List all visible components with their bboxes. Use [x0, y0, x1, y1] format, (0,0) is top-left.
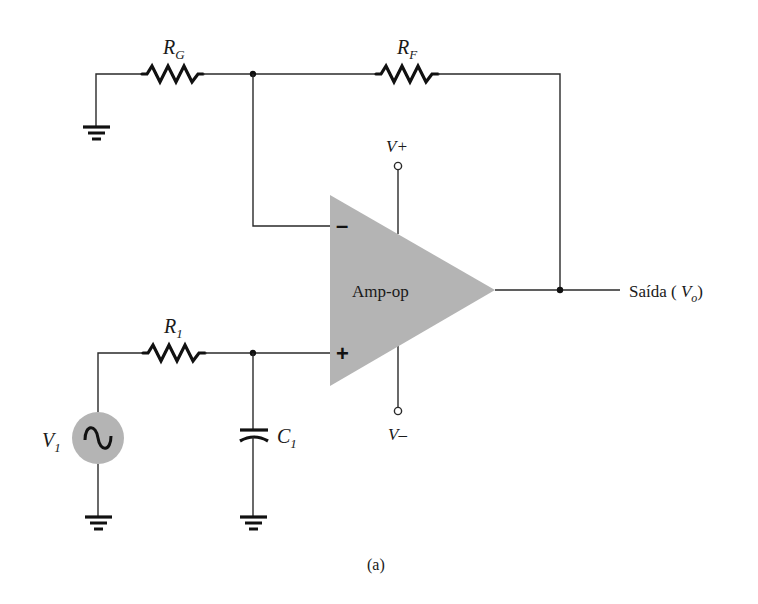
figure-caption: (a)	[367, 556, 385, 574]
ac-source-v1	[72, 412, 124, 464]
circuit-diagram: RG RF V+ V– Amp-op – + Saída ( Vo) R1	[0, 0, 758, 604]
top-left-wire	[96, 74, 142, 127]
opamp: Amp-op – +	[330, 195, 495, 386]
inverting-input-wire	[253, 74, 330, 226]
resistor-r1	[143, 345, 205, 361]
feedback-return-wire	[438, 74, 560, 290]
rf-label: RF	[396, 36, 418, 62]
r1-label: R1	[163, 315, 183, 341]
rg-label: RG	[162, 36, 185, 62]
c1-label: C1	[277, 425, 297, 451]
source-top-wire	[98, 353, 143, 412]
vplus-label: V+	[386, 137, 408, 156]
vminus-label: V–	[388, 425, 407, 444]
junction-dot-output	[557, 287, 563, 293]
capacitor-c1	[240, 430, 268, 441]
v1-label: V1	[42, 429, 61, 455]
vminus-terminal	[394, 407, 401, 414]
resistor-rg	[142, 66, 203, 82]
ground-symbol-top	[83, 127, 110, 139]
output-label: Saída ( Vo)	[629, 282, 703, 305]
noninverting-input-sign: +	[336, 341, 349, 366]
vplus-terminal	[394, 162, 401, 169]
resistor-rf	[376, 66, 438, 82]
ground-symbol-source	[85, 517, 112, 529]
opamp-label: Amp-op	[352, 282, 409, 301]
ground-symbol-capacitor	[240, 517, 267, 529]
inverting-input-sign: –	[336, 213, 348, 238]
